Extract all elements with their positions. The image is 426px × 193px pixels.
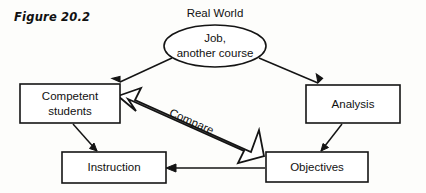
connector-objectives-to-instruction bbox=[166, 164, 265, 172]
job-another-course-line2: another course bbox=[177, 47, 254, 59]
instruction-label: Instruction bbox=[87, 161, 140, 173]
connector-competent-to-instruction bbox=[73, 124, 97, 151]
connector-source-to-analysis bbox=[259, 58, 323, 83]
real-world-label: Real World bbox=[187, 7, 244, 19]
objectives-box: Objectives bbox=[266, 152, 368, 182]
arrowhead-analysis-to-objectives bbox=[321, 144, 329, 152]
arrowhead-source-to-competent bbox=[112, 77, 120, 83]
competent-students-box: Competent students bbox=[20, 84, 120, 123]
analysis-box: Analysis bbox=[306, 85, 400, 123]
competent-students-line2: students bbox=[48, 105, 92, 117]
connector-source-to-competent bbox=[112, 58, 172, 82]
analysis-label: Analysis bbox=[332, 98, 375, 110]
flow-diagram: Real World Compar bbox=[0, 0, 426, 193]
compare-label: Compare bbox=[168, 106, 216, 136]
connector-analysis-to-objectives bbox=[321, 124, 342, 151]
job-another-course-line1: Job, bbox=[204, 32, 226, 44]
job-another-course-ellipse: Job, another course bbox=[164, 25, 266, 67]
objectives-label: Objectives bbox=[290, 161, 344, 173]
figure-container: Figure 20.2 Real World bbox=[0, 0, 426, 193]
arrowhead-objectives-to-instruction bbox=[166, 164, 176, 172]
competent-students-line1: Competent bbox=[42, 90, 99, 102]
instruction-box: Instruction bbox=[62, 152, 166, 183]
